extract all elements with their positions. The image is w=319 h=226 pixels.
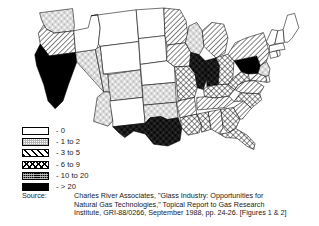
state-CO[interactable] <box>108 70 143 101</box>
legend-label-5: - > 20 <box>56 183 76 191</box>
state-MN[interactable] <box>164 8 188 45</box>
state-ND[interactable] <box>136 8 165 39</box>
state-MI[interactable] <box>202 22 228 57</box>
legend-row-2: - 3 to 5 <box>22 148 152 159</box>
state-ME[interactable] <box>283 13 299 42</box>
state-FL[interactable] <box>220 129 255 150</box>
legend-swatch-light-gray <box>22 138 49 146</box>
legend-swatch-solid-black <box>22 183 49 191</box>
legend-swatch-blank <box>22 127 49 135</box>
state-SD[interactable] <box>139 36 167 65</box>
legend-row-0: - 0 <box>22 126 152 137</box>
state-ID[interactable] <box>74 15 100 53</box>
figure-container: - 0 - 1 to 2 - 3 to 5 - 6 to 9 - 10 to 2… <box>0 0 319 226</box>
legend-row-1: - 1 to 2 <box>22 137 152 148</box>
source-line-3: Institute, GRI-88/0266, September 1988, … <box>74 209 314 218</box>
legend-row-3: - 6 to 9 <box>22 159 152 170</box>
legend-swatch-crosshatch <box>22 161 49 169</box>
legend: - 0 - 1 to 2 - 3 to 5 - 6 to 9 - 10 to 2… <box>22 126 152 193</box>
source-block: Source: Charles River Associates, "Glass… <box>22 192 314 218</box>
legend-swatch-diagonal <box>22 149 49 157</box>
state-NM[interactable] <box>110 97 145 126</box>
legend-label-0: - 0 <box>56 127 65 135</box>
state-TN[interactable] <box>197 96 234 110</box>
state-AZ[interactable] <box>94 92 113 126</box>
legend-label-3: - 6 to 9 <box>56 161 80 169</box>
state-AL[interactable] <box>208 109 223 134</box>
legend-row-4: - 10 to 20 <box>22 170 152 181</box>
state-KY[interactable] <box>203 84 234 98</box>
source-text: Charles River Associates, "Glass Industr… <box>74 192 314 218</box>
state-NE[interactable] <box>140 61 175 86</box>
state-IN[interactable] <box>205 58 219 87</box>
legend-label-2: - 3 to 5 <box>56 149 80 157</box>
source-label: Source: <box>22 192 74 201</box>
state-WY[interactable] <box>100 42 140 74</box>
legend-label-1: - 1 to 2 <box>56 138 80 146</box>
state-KS[interactable] <box>142 82 176 105</box>
legend-label-4: - 10 to 20 <box>56 172 89 180</box>
legend-swatch-dark-gray <box>22 172 49 180</box>
